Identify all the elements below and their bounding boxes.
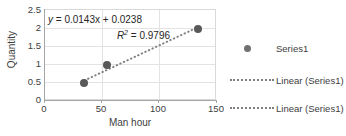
chart-legend: Series1 Linear (Series1) Linear (Series1…	[228, 0, 346, 136]
y-axis-line	[44, 9, 45, 101]
legend-label: Linear (Series1)	[276, 75, 344, 86]
equation-body: = 0.0143x + 0.0238	[53, 14, 142, 25]
legend-label: Linear (Series1)	[276, 103, 344, 114]
legend-marker-key	[228, 41, 276, 55]
x-tick-label: 100	[138, 104, 178, 114]
r-squared-text: R2 = 0.9796	[48, 26, 174, 42]
series-dot-icon	[244, 45, 251, 52]
x-axis-title: Man hour	[44, 117, 216, 128]
scatter-chart: 2.5 2 1.5 1 0.5 0 Quantity 0 50 100 150 …	[0, 0, 346, 136]
dotted-line-icon	[230, 79, 274, 81]
data-point	[194, 25, 202, 33]
r-squared-value: = 0.9796	[128, 30, 170, 41]
data-point	[80, 79, 88, 87]
y-axis-title: Quantity	[6, 15, 17, 85]
x-tick-label: 50	[81, 104, 121, 114]
x-axis-line	[44, 100, 217, 101]
legend-line-key	[228, 73, 276, 87]
y-tick-label: 2.5	[1, 5, 41, 15]
dotted-line-icon	[230, 107, 274, 109]
trendline-annotation: y = 0.0143x + 0.0238 R2 = 0.9796	[48, 13, 174, 42]
legend-label: Series1	[276, 43, 308, 54]
legend-line-key	[228, 101, 276, 115]
data-point	[103, 61, 111, 69]
x-tick-label: 0	[24, 104, 64, 114]
legend-item-linear-2[interactable]: Linear (Series1)	[228, 101, 346, 115]
equation-text: y = 0.0143x + 0.0238	[48, 13, 174, 26]
legend-item-series1[interactable]: Series1	[228, 41, 346, 55]
legend-item-linear-1[interactable]: Linear (Series1)	[228, 73, 346, 87]
